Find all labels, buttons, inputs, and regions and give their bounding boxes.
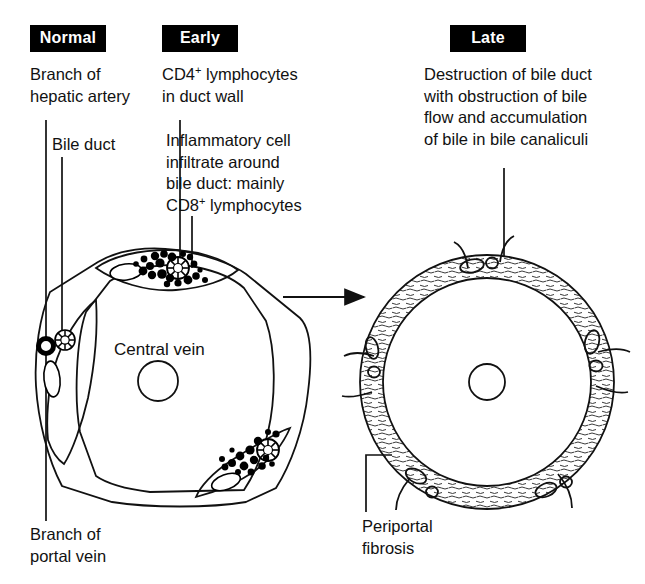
portal-vein-left xyxy=(42,360,62,397)
portal-tract-top-inflamed xyxy=(96,250,238,290)
central-vein-right xyxy=(469,364,505,400)
caption-hepatic-artery: Branch of hepatic artery xyxy=(30,64,160,107)
stage-badge-early: Early xyxy=(162,25,238,52)
caption-cd4-lymphocytes: CD4+ lymphocytes in duct wall xyxy=(162,64,312,107)
caption-cd8-part-2: lymphocytes xyxy=(205,196,301,214)
caption-destruction: Destruction of bile duct with obstructio… xyxy=(424,64,638,150)
figure-canvas: Normal Early Late Branch of hepatic arte… xyxy=(0,0,645,584)
bile-duct-br-lumen xyxy=(264,446,273,455)
caption-bile-duct: Bile duct xyxy=(52,134,115,156)
bile-duct-top-lumen xyxy=(174,264,183,273)
caption-cd4-part-1: CD4 xyxy=(162,65,195,83)
portal-tract-left-normal xyxy=(39,300,97,464)
label-central-vein: Central vein xyxy=(114,340,205,360)
central-vein-left xyxy=(138,361,178,401)
hepatic-artery-left xyxy=(39,339,54,354)
caption-cd8-infiltrate: Inflammatory cell infiltrate around bile… xyxy=(166,130,316,216)
stage-badge-normal: Normal xyxy=(30,25,106,52)
caption-portal-vein: Branch of portal vein xyxy=(30,524,160,567)
caption-periportal-fibrosis: Periportal fibrosis xyxy=(362,516,492,559)
stage-badge-late: Late xyxy=(450,25,526,52)
bile-duct-left-lumen xyxy=(61,336,69,344)
